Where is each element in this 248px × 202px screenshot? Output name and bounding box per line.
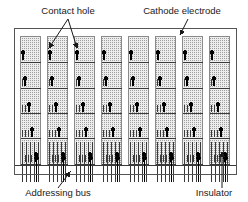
contact-hole-dot xyxy=(84,127,89,132)
contact-hole-dot xyxy=(165,127,170,132)
contact-hole-dot xyxy=(210,50,215,55)
contact-hole-dot xyxy=(48,50,53,55)
contact-hole-dot xyxy=(61,156,66,161)
contact-hole-dot xyxy=(138,127,143,132)
contact-hole-dot xyxy=(223,156,228,161)
contact-hole-dot xyxy=(162,102,167,107)
contact-hole-dot xyxy=(115,156,120,161)
contact-hole-dot xyxy=(131,76,136,81)
contact-hole-dot xyxy=(192,127,197,132)
label-contact-hole: Contact hole xyxy=(41,5,94,16)
contact-hole-dot xyxy=(30,127,35,132)
contact-hole-dot xyxy=(158,76,163,81)
contact-hole-dot xyxy=(216,102,221,107)
contact-hole-dot xyxy=(108,102,113,107)
contact-hole-dot xyxy=(57,127,62,132)
contact-hole-dot xyxy=(75,50,80,55)
contact-hole-dot xyxy=(212,76,217,81)
contact-hole-dot xyxy=(111,127,116,132)
label-cathode-electrode: Cathode electrode xyxy=(143,5,221,16)
contact-hole-dot xyxy=(185,76,190,81)
contact-hole-dot xyxy=(21,50,26,55)
contact-hole-dot xyxy=(196,156,201,161)
contact-hole-dot xyxy=(135,102,140,107)
figure-container: Contact hole Cathode electrode Addressin… xyxy=(0,0,248,202)
contact-hole-dot xyxy=(102,50,107,55)
contact-hole-dot xyxy=(189,102,194,107)
contact-hole-dot xyxy=(169,156,174,161)
contact-hole-dot xyxy=(27,102,32,107)
contact-hole-dot xyxy=(50,76,55,81)
contact-hole-dot xyxy=(129,50,134,55)
contact-hole-dot xyxy=(77,76,82,81)
panel-layout-diagram: Contact hole Cathode electrode Addressin… xyxy=(0,0,248,202)
contact-hole-dot xyxy=(104,76,109,81)
label-addressing-bus: Addressing bus xyxy=(25,187,91,198)
contact-hole-dot xyxy=(183,50,188,55)
contact-hole-dot xyxy=(156,50,161,55)
contact-hole-dot xyxy=(142,156,147,161)
contact-hole-dot xyxy=(219,127,224,132)
contact-hole-dot xyxy=(54,102,59,107)
label-insulator: Insulator xyxy=(196,187,232,198)
contact-hole-dot xyxy=(34,156,39,161)
contact-hole-dot xyxy=(88,156,93,161)
contact-hole-dot xyxy=(23,76,28,81)
contact-hole-dot xyxy=(81,102,86,107)
